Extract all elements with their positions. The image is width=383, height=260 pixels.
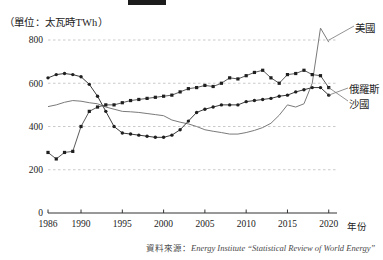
gridlines [48,40,337,170]
svg-text:600: 600 [29,79,44,89]
svg-text:1995: 1995 [113,219,132,229]
svg-text:200: 200 [29,165,44,175]
svg-text:400: 400 [29,122,44,132]
x-axis-name: 年份 [347,219,367,233]
svg-text:2015: 2015 [278,219,297,229]
x-tick-labels: 19861990199520002005201020152020 [39,219,339,229]
series-label-russia: 俄羅斯 [349,81,379,96]
source-text: Energy Institute “Statistical Review of … [191,243,375,253]
svg-text:2020: 2020 [319,219,338,229]
series-lines [46,28,330,160]
axes [48,210,337,214]
svg-text:800: 800 [29,35,44,45]
svg-text:2010: 2010 [237,219,256,229]
svg-text:2005: 2005 [195,219,214,229]
source-note: 資料來源：Energy Institute “Statistical Revie… [146,241,375,253]
series-label-us: 美國 [355,20,375,35]
chart-container: （單位：太瓦時TWh） 0200400600800 19861990199520… [0,0,383,260]
svg-text:0: 0 [38,208,43,218]
svg-text:1986: 1986 [39,219,58,229]
line-chart-plot: 0200400600800 19861990199520002005201020… [0,0,383,260]
svg-text:1990: 1990 [72,219,91,229]
svg-text:2000: 2000 [154,219,173,229]
series-label-saudi: 沙國 [349,96,369,111]
y-tick-labels: 0200400600800 [29,35,44,218]
source-prefix: 資料來源： [146,243,191,253]
